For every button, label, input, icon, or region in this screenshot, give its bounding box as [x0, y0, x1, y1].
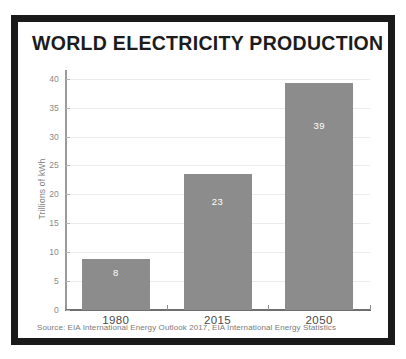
- y-axis-tick-label: 40: [39, 74, 59, 84]
- y-axis-tick-label: 5: [39, 276, 59, 286]
- y-axis-label: Trillions of kWh: [37, 149, 47, 229]
- bar: 39: [285, 83, 353, 310]
- poster-canvas: WORLD ELECTRICITY PRODUCTION 05101520253…: [0, 0, 406, 359]
- poster-inner: WORLD ELECTRICITY PRODUCTION 05101520253…: [18, 22, 388, 338]
- poster-frame: WORLD ELECTRICITY PRODUCTION 05101520253…: [11, 15, 395, 345]
- x-axis-tick-mark: [167, 305, 168, 310]
- bar: 23: [184, 174, 252, 310]
- bar: 8: [82, 259, 150, 310]
- y-axis-tick-label: 10: [39, 247, 59, 257]
- bar-chart: 0510152025303540 Trillions of kWh 82339 …: [18, 62, 388, 338]
- page-title: WORLD ELECTRICITY PRODUCTION: [32, 32, 383, 55]
- y-axis-tick-mark: [66, 310, 70, 311]
- x-axis-tick-mark: [65, 305, 66, 310]
- x-axis-tick-mark: [268, 305, 269, 310]
- bar-value-label: 8: [82, 267, 150, 278]
- y-axis-tick-label: 35: [39, 103, 59, 113]
- plot-area: 82339: [65, 70, 370, 310]
- bar-value-label: 39: [285, 120, 353, 131]
- x-axis-tick-mark: [370, 305, 371, 310]
- y-axis-tick-label: 30: [39, 132, 59, 142]
- source-note: Source: EIA International Energy Outlook…: [37, 323, 336, 332]
- bar-value-label: 23: [184, 196, 252, 207]
- y-axis-tick-label: 0: [39, 305, 59, 315]
